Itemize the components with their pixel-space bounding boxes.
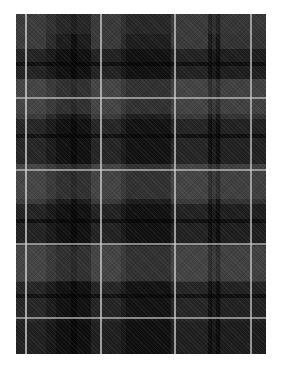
weave-texture (16, 14, 266, 354)
horizontal-pinstripe (16, 97, 266, 99)
horizontal-pinstripe (16, 317, 266, 319)
vertical-pinstripe (174, 14, 176, 354)
horizontal-pinstripe (16, 243, 266, 245)
horizontal-pinstripe (16, 169, 266, 171)
vertical-pinstripe (250, 14, 252, 354)
tartan-fabric-swatch (16, 14, 266, 354)
vertical-pinstripe (25, 14, 27, 354)
vertical-pinstripe (100, 14, 102, 354)
